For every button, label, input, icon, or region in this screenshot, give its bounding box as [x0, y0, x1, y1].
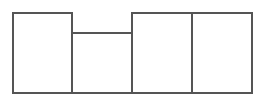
- bar-1: [12, 12, 73, 94]
- bar-4: [191, 12, 253, 94]
- bar-2: [71, 32, 133, 94]
- bar-chart: [0, 0, 271, 98]
- bar-3: [131, 12, 193, 94]
